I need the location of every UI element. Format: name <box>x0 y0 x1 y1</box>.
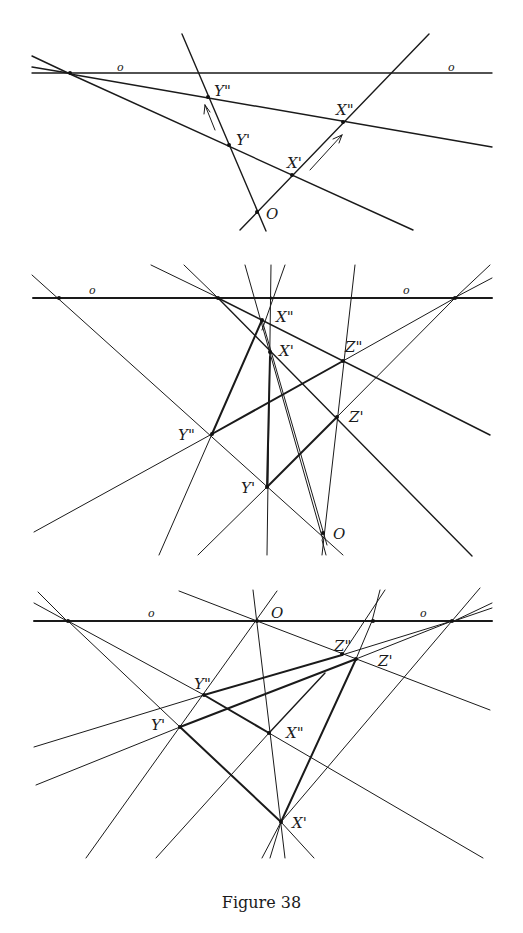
point-y2 <box>206 95 210 99</box>
panel-2: o o X" X' Z" Z' Y" Y' O <box>32 265 492 556</box>
line-origin-y <box>86 591 277 858</box>
point-origin <box>321 531 325 535</box>
point-vanishing-right <box>450 619 454 623</box>
line-vp-y1 <box>68 621 180 727</box>
point-vanishing-right <box>453 296 457 300</box>
point-x2 <box>267 731 271 735</box>
label-x1: X' <box>278 342 294 360</box>
label-y2: Y" <box>178 426 195 444</box>
panel-3: o o O Z" Z' Y" Y' X" X' <box>34 588 492 858</box>
pencil-line <box>179 591 257 621</box>
line-y-origin <box>32 275 343 555</box>
label-o: o <box>403 284 410 297</box>
point-y2 <box>202 693 206 697</box>
figure-caption: Figure 38 <box>0 893 523 912</box>
line-y1-lower <box>198 487 267 555</box>
line-vp-y2 <box>68 621 204 695</box>
line-vp-z1 <box>337 298 455 417</box>
point-vanishing <box>68 71 72 75</box>
pencil-line <box>454 608 492 621</box>
point-z2 <box>341 359 345 363</box>
point-x1 <box>268 350 272 354</box>
line-y2-z2 <box>204 655 342 695</box>
point-x2 <box>260 318 264 322</box>
line-z2-vp <box>342 621 452 655</box>
label-o: o <box>117 61 124 74</box>
line-x-origin <box>240 34 429 230</box>
label-z1: Z' <box>377 652 393 670</box>
line-y2-lower <box>159 434 212 555</box>
pencil-line <box>456 278 492 297</box>
label-y2: Y" <box>194 675 211 693</box>
line-x1-z1 <box>218 298 472 556</box>
line-origin-z1 <box>257 621 490 710</box>
line-y2-left <box>34 434 212 532</box>
point-y1 <box>227 143 231 147</box>
point-vanishing <box>216 296 220 300</box>
point-left <box>57 296 61 300</box>
label-o: o <box>148 607 155 620</box>
label-y2: Y" <box>214 82 231 100</box>
panel-1: o o Y" Y' X" X' O <box>32 34 492 231</box>
line-z1-vp <box>356 621 452 659</box>
line-y2-left <box>34 695 204 747</box>
label-o: o <box>448 61 455 74</box>
label-x1: X' <box>286 154 302 172</box>
figure-38-diagram: o o Y" Y' X" X' O <box>0 0 523 933</box>
point-vanishing-mid <box>371 619 375 623</box>
point-origin <box>255 619 259 623</box>
line-x2-y2 <box>212 320 262 434</box>
point-z1 <box>354 657 358 661</box>
label-y1: Y' <box>151 716 165 734</box>
point-z1 <box>335 415 339 419</box>
label-z2: Z" <box>333 637 351 655</box>
label-origin: O <box>271 604 283 622</box>
line-y1-x1 <box>180 727 281 822</box>
line-x2-lower <box>269 733 483 858</box>
point-x1 <box>279 820 283 824</box>
label-x2: X" <box>275 308 294 326</box>
line-vp-x1 <box>281 588 480 822</box>
pencil-line <box>151 265 217 297</box>
point-y1 <box>265 485 269 489</box>
label-x2: X" <box>285 724 304 742</box>
label-x2: X" <box>335 101 354 119</box>
line-z1-y1 <box>267 417 337 487</box>
label-y1: Y' <box>241 479 255 497</box>
label-o: o <box>420 607 427 620</box>
point-y1 <box>178 725 182 729</box>
label-origin: O <box>333 525 345 543</box>
point-y2 <box>210 432 214 436</box>
line-x2-origin <box>245 265 323 540</box>
line-y-origin <box>182 34 266 231</box>
line-top-pencil <box>372 590 380 621</box>
point-x1 <box>290 173 294 177</box>
label-o: o <box>89 284 96 297</box>
point-x2 <box>341 120 345 124</box>
point-vanishing-left <box>66 619 70 623</box>
pencil-line <box>34 603 67 621</box>
label-z1: Z' <box>348 408 364 426</box>
pencil-line <box>184 265 217 297</box>
label-origin: O <box>266 205 278 223</box>
label-z2: Z" <box>344 338 362 356</box>
label-x1: X' <box>291 814 307 832</box>
point-top <box>269 296 272 299</box>
pencil-line <box>456 265 490 297</box>
label-y1: Y' <box>236 131 250 149</box>
pencil-line <box>38 592 67 621</box>
point-origin <box>255 210 259 214</box>
line-y2-x2 <box>70 74 492 147</box>
line-y1-x1 <box>70 74 413 230</box>
